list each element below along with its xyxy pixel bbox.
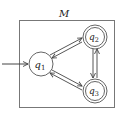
state-q1: q1 — [29, 52, 53, 76]
transition-q2-q1 — [52, 42, 82, 58]
machine-label: M — [58, 8, 70, 19]
state-machine-diagram: M q1 q2 q3 — [0, 0, 122, 117]
transition-q1-q2 — [50, 38, 82, 55]
state-q2: q2 — [83, 25, 107, 49]
transition-q3-q1 — [50, 73, 82, 90]
state-q3: q3 — [83, 79, 107, 103]
transition-q1-q3 — [52, 70, 82, 86]
